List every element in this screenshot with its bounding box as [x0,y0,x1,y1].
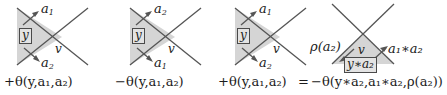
label-right-arc-4: a₁∗a₂ [388,42,423,55]
panel-4: ρ(a₂) a₁∗a₂ v y∗a₂ −θ(y∗a₂,a₁∗a₂,ρ(a₂)) [310,0,447,95]
panel-1: a1 a2 v y +θ(y,a₁,a₂) [0,0,105,95]
label-bottom-arc-1: a2 [41,56,54,71]
boxed-label-1: y [19,28,32,44]
panel-2: a2 a1 v y −θ(y,a₁,a₂) [113,0,218,95]
boxed-label-4: y∗a₂ [344,57,377,73]
label-crossing-4: v [358,44,365,56]
label-crossing-2: v [168,43,175,55]
boxed-label-3: y [237,28,250,44]
formula-3: +θ(y,a₁,a₂) [218,74,287,89]
label-bottom-arc-2: a1 [154,56,167,71]
label-bottom-arc-3: a2 [259,56,272,71]
equals-sign: = [298,74,309,89]
boxed-label-2: y [132,28,145,44]
label-left-arc-4: ρ(a₂) [310,40,341,53]
label-crossing-3: v [273,43,280,55]
formula-4: −θ(y∗a₂,a₁∗a₂,ρ(a₂)) [311,74,443,89]
formula-1: +θ(y,a₁,a₂) [4,74,73,89]
label-top-arc-3: a1 [259,2,272,17]
label-top-arc-2: a2 [154,2,167,17]
label-top-arc-1: a1 [41,2,54,17]
figure-container: a1 a2 v y +θ(y,a₁,a₂) a2 a1 v y −θ(y,a₁,… [0,0,447,95]
formula-2: −θ(y,a₁,a₂) [115,74,184,89]
label-crossing-1: v [55,43,62,55]
